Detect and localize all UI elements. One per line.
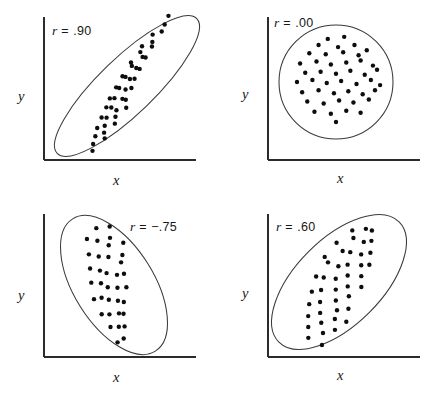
scatter-point (316, 43, 320, 47)
scatter-point (375, 67, 379, 71)
scatter-point (316, 88, 320, 92)
scatter-point (120, 253, 124, 257)
scatter-point (314, 274, 318, 278)
scatter-point (129, 86, 133, 90)
scatter-point (334, 287, 338, 291)
scatter-point (107, 312, 111, 316)
scatter-point (300, 90, 304, 94)
scatter-point (305, 99, 309, 103)
scatter-point (106, 255, 110, 259)
scatter-point (88, 266, 92, 270)
scatter-point (364, 227, 368, 231)
scatter-point (329, 62, 333, 66)
r-value: .60 (297, 220, 315, 234)
scatter-point (320, 343, 324, 347)
scatter-point (97, 254, 101, 258)
scatter-point (326, 37, 330, 41)
scatter-point (140, 44, 144, 48)
scatter-point (307, 51, 311, 55)
scatter-point (351, 100, 355, 104)
scatter-point (91, 142, 95, 146)
scatter-point (333, 317, 337, 321)
panel-canvas (224, 0, 447, 197)
scatter-point (98, 268, 102, 272)
scatter-point (99, 115, 103, 119)
r-symbol: r (274, 15, 279, 30)
scatter-point (344, 60, 348, 64)
scatter-point (324, 52, 328, 56)
x-axis-label: x (337, 170, 343, 187)
scatter-point (85, 237, 89, 241)
scatter-point (103, 124, 107, 128)
y-axis-label: y (242, 86, 248, 103)
scatter-point (103, 136, 107, 140)
scatter-point (113, 115, 117, 119)
y-axis-label: y (18, 287, 24, 304)
scatter-point (116, 299, 120, 303)
scatter-point (326, 260, 330, 264)
scatter-point (107, 224, 111, 228)
scatter-point (121, 241, 125, 245)
scatter-point (166, 14, 170, 18)
scatter-point (312, 110, 316, 114)
scatter-point (306, 336, 310, 340)
scatter-point (345, 273, 349, 277)
scatter-point (367, 263, 371, 267)
scatter-point (310, 289, 314, 293)
scatter-point (112, 96, 116, 100)
scatter-point (322, 275, 326, 279)
scatter-point (370, 228, 374, 232)
scatter-point (109, 105, 113, 109)
x-axis-label: x (113, 369, 119, 386)
panel-canvas (0, 0, 223, 197)
scatter-point (87, 252, 91, 256)
correlation-scatterplot-figure: r = .90yxr = .00yxr = −.75yxr = .60yx (0, 0, 447, 394)
scatter-point (93, 134, 97, 138)
scatter-point (344, 109, 348, 113)
scatter-point (128, 77, 132, 81)
scatter-point (114, 85, 118, 89)
scatter-point (314, 59, 318, 63)
panel-canvas (0, 197, 223, 394)
scatter-point (334, 298, 338, 302)
scatter-point (373, 88, 377, 92)
scatter-point (351, 236, 355, 240)
scatter-point (140, 55, 144, 59)
scatter-point (104, 105, 108, 109)
scatter-point (360, 92, 364, 96)
panel-canvas (224, 197, 447, 394)
scatter-panel-panel-r00: r = .00yx (224, 0, 447, 197)
scatter-point (120, 74, 124, 78)
data-points (85, 224, 129, 344)
scatter-point (129, 60, 133, 64)
scatter-point (332, 91, 336, 95)
scatter-point (348, 250, 352, 254)
scatter-point (122, 324, 126, 328)
scatter-point (108, 236, 112, 240)
scatter-point (306, 325, 310, 329)
scatter-point (138, 50, 142, 54)
scatter-point (150, 44, 154, 48)
scatter-point (352, 43, 356, 47)
r-value: −.75 (151, 220, 176, 234)
correlation-annotation: r = .60 (276, 219, 315, 235)
scatter-point (345, 262, 349, 266)
scatter-point (336, 45, 340, 49)
scatter-point (150, 32, 154, 36)
r-symbol: r (52, 23, 57, 38)
scatter-point (107, 298, 111, 302)
scatter-point (90, 149, 94, 153)
scatter-point (121, 336, 125, 340)
scatter-point (318, 300, 322, 304)
scatter-point (342, 35, 346, 39)
scatter-point (369, 78, 373, 82)
scatter-point (92, 297, 96, 301)
scatter-point (117, 311, 121, 315)
scatter-panel-panel-r90: r = .90yx (0, 0, 223, 197)
scatter-point (334, 120, 338, 124)
scatter-point (334, 277, 338, 281)
scatter-point (362, 240, 366, 244)
scatter-point (160, 29, 164, 33)
scatter-point (344, 320, 348, 324)
scatter-point (117, 324, 121, 328)
